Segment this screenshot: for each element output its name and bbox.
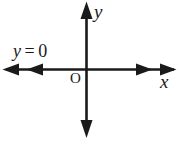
origin-label: O [70, 71, 81, 86]
x-axis-left-inner-arrowhead-icon [27, 64, 44, 76]
x-axis-label: x [160, 72, 168, 91]
x-axis-left-outer-arrowhead-icon [3, 64, 20, 76]
equation-value: 0 [38, 41, 47, 61]
x-axis-right-inner-arrowhead-icon [136, 64, 153, 76]
y-axis-up-arrowhead-icon [81, 2, 93, 20]
equation-variable: y [13, 41, 21, 61]
y-axis-label: y [94, 2, 102, 21]
coordinate-plane-figure: y x O y = 0 [0, 0, 179, 144]
y-axis-down-arrowhead-icon [81, 120, 93, 138]
equation-operator: = [21, 41, 38, 61]
coordinate-axes-graphic [0, 0, 179, 144]
equation-label-y-equals-zero: y = 0 [13, 42, 47, 60]
